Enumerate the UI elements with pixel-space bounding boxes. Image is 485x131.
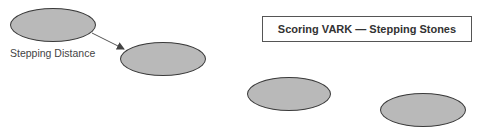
stepping-distance-label: Stepping Distance <box>10 47 95 59</box>
diagram-title: Scoring VARK — Stepping Stones <box>262 16 472 42</box>
